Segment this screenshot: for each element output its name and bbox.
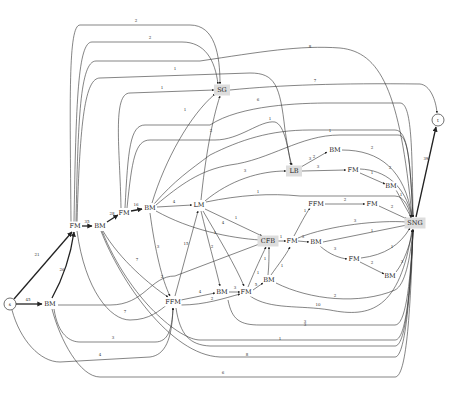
node-bm4: BM: [329, 146, 341, 155]
edge-weight-label: 3: [334, 246, 337, 251]
node-label: BM: [144, 204, 156, 212]
node-label: BM: [310, 238, 322, 246]
edge-weight-label: 4: [222, 220, 225, 225]
node-bm6: BM: [310, 238, 322, 247]
edge-s-to-fm1: [14, 232, 72, 299]
edge-weight-label: 1: [235, 215, 238, 220]
edge-weight-label: 5: [255, 282, 258, 287]
node-label: BM: [384, 272, 396, 280]
node-label: CFB: [261, 237, 275, 245]
node-ffm2: FFM: [308, 200, 325, 209]
edge-fm5-to-ffm2: [294, 208, 310, 236]
edge-weight-label: 1: [257, 189, 260, 194]
edge-weight-label: 7: [124, 309, 127, 314]
edge-weight-label: 28: [109, 211, 115, 216]
edge-weight-label: 2: [389, 165, 392, 170]
node-bm5: BM: [385, 182, 397, 191]
edge-weight-label: 1: [174, 66, 177, 71]
edge-weight-label: 6: [222, 370, 225, 375]
edge-weight-label: 26: [59, 267, 65, 272]
nodes-layer: stBMFMBMFMBMLMSGLBBMFMBMFFMFMSNGCFBFMBMF…: [4, 85, 444, 311]
edge-weight-label: 1: [304, 208, 307, 213]
edge-weight-label: 1: [269, 116, 272, 121]
edge-fm1-to-lb: [77, 73, 292, 222]
edge-weight-label: 1: [329, 128, 332, 133]
edge-sng-to-t: [416, 127, 436, 217]
edge-fm6-to-sng: [361, 228, 410, 258]
edge-ffm1-to-lm: [175, 211, 198, 296]
edge-bm2-to-ffm1: [103, 231, 168, 297]
edge-weight-label: 39: [423, 156, 429, 161]
edge-weight-label: 1: [257, 270, 260, 275]
node-cfb: CFB: [258, 236, 279, 247]
edge-weight-label: 10: [315, 302, 321, 307]
edge-weight-label: 3: [401, 259, 404, 264]
edge-weight-label: 2: [210, 128, 213, 133]
edge-weight-label: 6: [257, 97, 260, 102]
node-label: FFM: [308, 200, 324, 208]
edge-weight-label: 8: [246, 352, 249, 357]
edge-bm3-to-ffm1: [150, 213, 170, 296]
edge-weight-label: 35: [84, 219, 90, 224]
edge-weight-label: 2: [211, 296, 214, 301]
flow-graph: 4521263528164228116111313231124154235110…: [0, 0, 464, 394]
node-label: FM: [286, 237, 298, 245]
node-label: BM: [44, 300, 56, 308]
edge-lm-to-lb: [205, 171, 286, 201]
edge-fm1-to-sg: [70, 25, 220, 222]
edge-weight-label: 7: [314, 78, 317, 83]
edge-weight-label: 2: [371, 260, 374, 265]
edge-fm1-to-ffm1: [77, 231, 168, 320]
edge-bm2-to-sng: [101, 230, 413, 357]
edge-weight-label: 15: [183, 241, 189, 246]
edge-weight-label: 21: [34, 252, 39, 257]
node-bm1: BM: [44, 300, 56, 309]
node-bm7: BM: [384, 272, 396, 281]
edge-fm5-to-bm6: [298, 241, 309, 242]
edge-weight-label: 2: [334, 293, 337, 298]
node-ffm1: FFM: [165, 298, 182, 307]
node-bm3: BM: [144, 204, 156, 213]
node-label: BM: [385, 182, 397, 190]
edge-weight-label: 45: [25, 297, 31, 302]
node-s: s: [4, 298, 16, 310]
edge-weight-label: 2: [344, 197, 347, 202]
node-label: BM: [329, 146, 341, 154]
edge-weight-label: 1: [281, 263, 284, 268]
edge-weight-label: 2: [149, 35, 152, 40]
edge-weight-label: 3: [304, 319, 307, 324]
node-fm7: FM: [240, 288, 252, 297]
edge-weight-label: 3: [354, 218, 357, 223]
node-label: FM: [240, 288, 252, 296]
edge-fm2-to-sg: [118, 90, 214, 208]
edge-weight-label: 3: [157, 244, 160, 249]
node-label: FM: [366, 200, 378, 208]
node-fm6: FM: [348, 255, 360, 264]
edge-fm2-to-bm3: [131, 209, 142, 211]
edge-weight-label: 1: [280, 234, 283, 239]
node-label: FM: [69, 222, 81, 230]
edge-labels-layer: 4521263528164228116111313231124154235110…: [25, 18, 429, 375]
edge-weight-label: 7: [136, 257, 139, 262]
edge-weight-label: 2: [313, 154, 316, 159]
edge-weight-label: 3: [302, 234, 305, 239]
edge-weight-label: 1: [279, 336, 282, 341]
edge-weight-label: 4: [99, 352, 102, 357]
node-sg: SG: [214, 85, 230, 96]
edge-weight-label: 2: [135, 18, 138, 23]
edge-bm9-to-cfb: [268, 247, 269, 275]
node-fm3: FM: [347, 166, 359, 175]
edge-lm-to-sg: [201, 96, 220, 200]
node-bm2: BM: [94, 222, 106, 231]
node-t: t: [432, 114, 444, 126]
graph-svg: 4521263528164228116111313231124154235110…: [0, 0, 464, 394]
edge-bm3-to-cfb: [156, 211, 260, 240]
edge-weight-label: 3: [317, 164, 320, 169]
node-lm: LM: [193, 201, 205, 210]
edge-weight-label: 4: [173, 199, 176, 204]
node-label: LM: [194, 201, 205, 209]
node-label: LB: [289, 167, 298, 175]
edge-weight-label: 16: [133, 202, 139, 207]
edge-weight-label: 1: [184, 107, 187, 112]
edge-weight-label: 4: [199, 289, 202, 294]
